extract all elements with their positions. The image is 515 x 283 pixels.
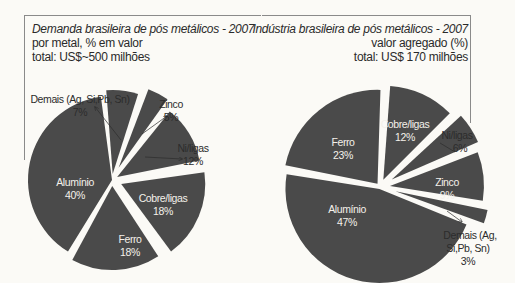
label-ferro-pct-r: 23% bbox=[333, 149, 353, 161]
label-ni-pct: 12% bbox=[183, 155, 203, 167]
label-ni-pct-r: 6% bbox=[453, 142, 467, 154]
label-aluminio-pct: 40% bbox=[65, 189, 85, 201]
label-demais-r-2: Si,Pb, Sn) bbox=[446, 242, 489, 254]
label-cobre-r: Cobre/ligas bbox=[381, 118, 430, 130]
label-ni-r: Ni/ligas bbox=[441, 129, 472, 141]
label-aluminio-r: Alumínio bbox=[328, 203, 366, 215]
label-ferro-r: Ferro bbox=[331, 136, 355, 148]
label-zinco-r: Zinco bbox=[435, 176, 459, 188]
label-aluminio-pct-r: 47% bbox=[337, 216, 357, 228]
label-zinco: Zinco bbox=[159, 98, 183, 110]
label-aluminio: Alumínio bbox=[56, 176, 94, 188]
left-pie-chart bbox=[28, 89, 205, 270]
label-cobre: Cobre/ligas bbox=[139, 192, 188, 204]
label-ferro-pct: 18% bbox=[120, 246, 140, 258]
label-cobre-pct: 18% bbox=[153, 205, 173, 217]
label-ni: Ni/ligas bbox=[177, 142, 208, 154]
label-demais-pct-r: 3% bbox=[461, 255, 475, 267]
label-demais-r-1: Demais (Ag, bbox=[443, 229, 496, 241]
label-demais-pct: 7% bbox=[73, 106, 87, 118]
label-zinco-pct-r: 9% bbox=[440, 189, 454, 201]
label-ferro: Ferro bbox=[118, 233, 142, 245]
charts-canvas: Alumínio 40% Ferro 18% Cobre/ligas 18% N… bbox=[0, 0, 515, 283]
label-cobre-pct-r: 12% bbox=[395, 131, 415, 143]
label-demais: Demais (Ag, Si,Pb, Sn) bbox=[30, 93, 129, 105]
